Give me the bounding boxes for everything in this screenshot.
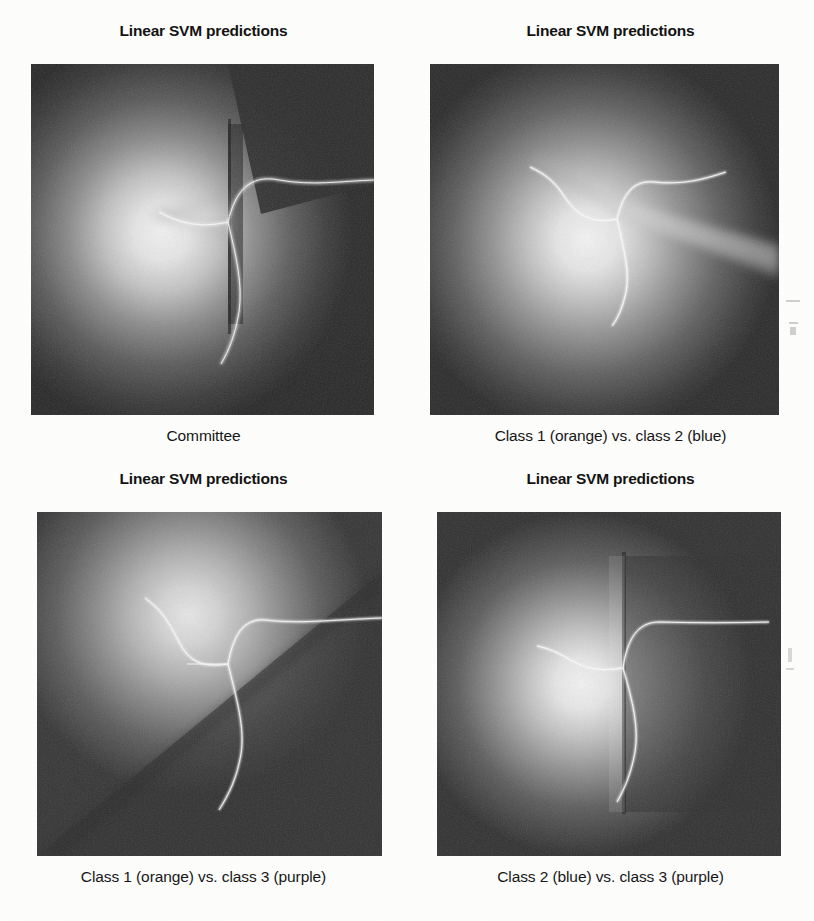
panel-committee: Linear SVM predictions [0, 22, 407, 462]
heatmap-class1-vs-class2 [430, 64, 779, 415]
plot-class2-vs-class3 [437, 512, 781, 856]
panel-caption: Class 1 (orange) vs. class 3 (purple) [0, 868, 407, 886]
plot-class1-vs-class2 [430, 64, 779, 415]
scan-artifact-bottom [788, 648, 792, 662]
figure-sheet: Linear SVM predictions [0, 0, 814, 921]
scan-artifact-lower [790, 327, 796, 335]
plot-class1-vs-class3 [37, 512, 382, 856]
heatmap-committee [31, 64, 374, 415]
panel-class1-vs-class3: Linear SVM predictions [0, 470, 407, 910]
panel-title: Linear SVM predictions [0, 22, 407, 40]
panel-title: Linear SVM predictions [407, 470, 814, 488]
panel-caption: Class 2 (blue) vs. class 3 (purple) [407, 868, 814, 886]
scan-artifact-top [786, 300, 800, 302]
panel-class2-vs-class3: Linear SVM predictions [407, 470, 814, 910]
panel-class1-vs-class2: Linear SVM predictions [407, 22, 814, 462]
panel-title: Linear SVM predictions [407, 22, 814, 40]
panel-caption: Committee [0, 427, 407, 445]
scan-artifact-bottom-2 [786, 668, 794, 670]
heatmap-class1-vs-class3 [37, 512, 382, 856]
scan-artifact-middle [789, 322, 798, 324]
panel-title: Linear SVM predictions [0, 470, 407, 488]
plot-committee [31, 64, 374, 415]
heatmap-class2-vs-class3 [437, 512, 781, 856]
panel-caption: Class 1 (orange) vs. class 2 (blue) [407, 427, 814, 445]
